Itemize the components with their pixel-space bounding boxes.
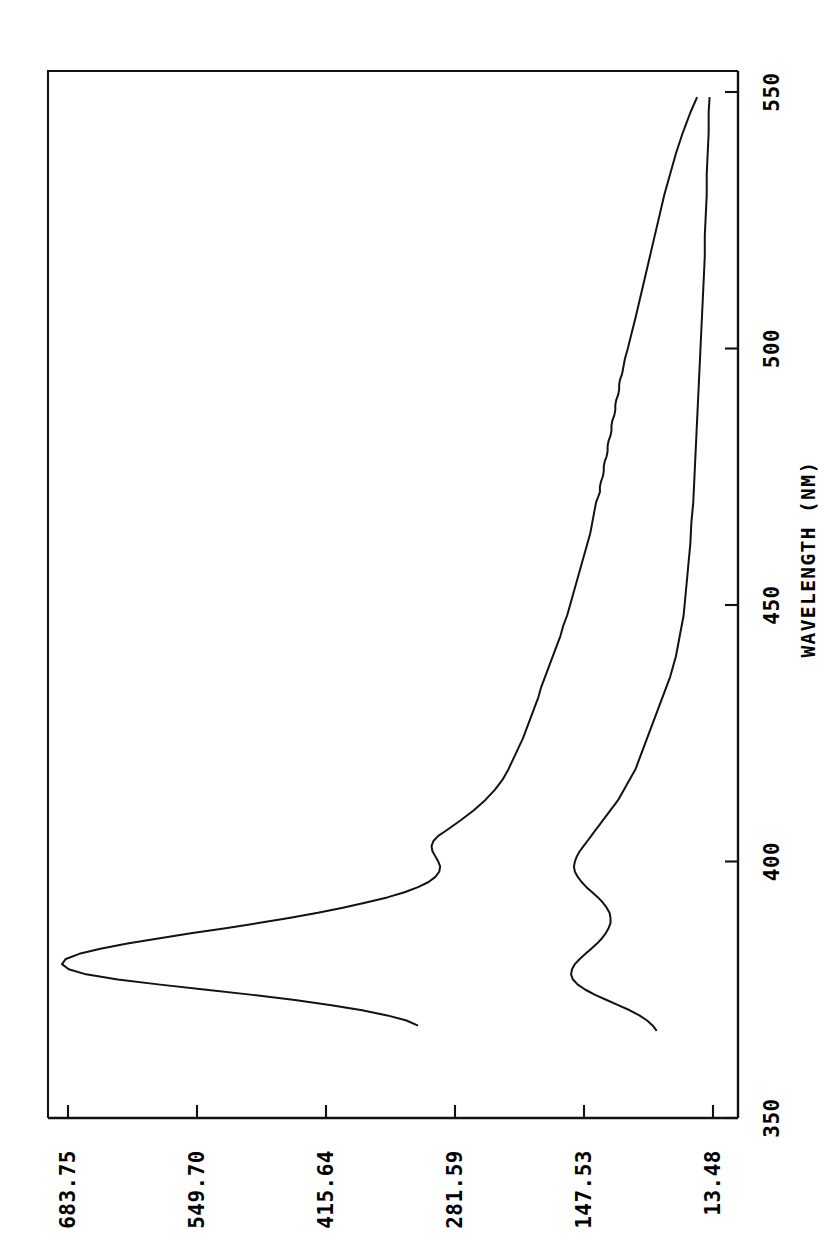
intensity-tick-label: 13.48	[701, 1150, 725, 1216]
intensity-ticks-group: 13.48147.53281.59415.64549.70683.75	[56, 1105, 725, 1229]
intensity-tick-label: 683.75	[56, 1150, 80, 1229]
wavelength-ticks-group: 350400450500550	[725, 72, 784, 1137]
intensity-tick-label: 549.70	[185, 1150, 209, 1229]
wavelength-axis-title: WAVELENGTH (NM)	[797, 460, 820, 657]
curves-group	[62, 97, 710, 1031]
wavelength-tick-label: 550	[760, 72, 784, 111]
plot-box-outline	[48, 71, 738, 1118]
wavelength-tick-label: 450	[760, 585, 784, 624]
wavelength-tick-label: 350	[760, 1098, 784, 1137]
intensity-tick-label: 415.64	[314, 1150, 338, 1229]
spectrum-figure: 35040045050055013.48147.53281.59415.6454…	[0, 0, 833, 1256]
intensity-tick-label: 147.53	[572, 1150, 596, 1229]
wavelength-tick-label: 500	[760, 329, 784, 368]
spectrum-curve-2	[571, 97, 710, 1031]
spectrum-curve-1	[62, 97, 697, 1026]
rotated-plot-wrapper: 35040045050055013.48147.53281.59415.6454…	[0, 0, 833, 1256]
plot-frame-group	[48, 71, 738, 1118]
spectrum-plot-svg: 35040045050055013.48147.53281.59415.6454…	[0, 0, 833, 1256]
wavelength-tick-label: 400	[760, 842, 784, 881]
intensity-tick-label: 281.59	[443, 1150, 467, 1229]
